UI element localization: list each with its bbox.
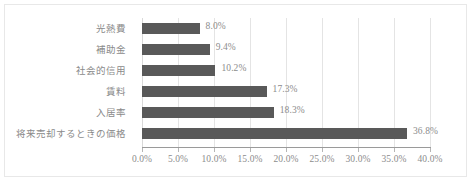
bar[interactable]: [142, 128, 407, 139]
bar-value-label: 17.3%: [273, 84, 298, 94]
x-axis-tick: [214, 148, 215, 152]
category-label: 将来売却するときの価格: [0, 126, 126, 140]
x-axis-tick: [394, 148, 395, 152]
x-axis-tick: [358, 148, 359, 152]
bar-row: 社会的信用10.2%: [5, 60, 466, 81]
x-axis-tick-label: 40.0%: [400, 154, 460, 164]
bar-row: 賃料17.3%: [5, 81, 466, 102]
bar-value-label: 8.0%: [206, 21, 226, 31]
bar-row: 光熱費8.0%: [5, 18, 466, 39]
bar[interactable]: [142, 65, 215, 76]
x-axis-tick: [142, 148, 143, 152]
category-label: 入居率: [0, 105, 126, 119]
x-axis-tick: [430, 148, 431, 152]
bar-row: 入居率18.3%: [5, 102, 466, 123]
bar-value-label: 9.4%: [216, 42, 236, 52]
bar-value-label: 18.3%: [280, 105, 305, 115]
category-label: 社会的信用: [0, 63, 126, 77]
category-label: 賃料: [0, 84, 126, 98]
x-axis-tick: [322, 148, 323, 152]
chart-frame: 0.0%5.0%10.0%15.0%20.0%25.0%30.0%35.0%40…: [4, 4, 467, 177]
bar-value-label: 36.8%: [413, 126, 438, 136]
bar[interactable]: [142, 107, 274, 118]
category-label: 補助金: [0, 42, 126, 56]
x-axis-tick: [286, 148, 287, 152]
x-axis-tick: [250, 148, 251, 152]
bar[interactable]: [142, 23, 200, 34]
bar[interactable]: [142, 86, 267, 97]
bar-row: 将来売却するときの価格36.8%: [5, 123, 466, 144]
bar-value-label: 10.2%: [221, 63, 246, 73]
bar[interactable]: [142, 44, 210, 55]
x-axis-tick: [178, 148, 179, 152]
category-label: 光熱費: [0, 21, 126, 35]
bar-row: 補助金9.4%: [5, 39, 466, 60]
